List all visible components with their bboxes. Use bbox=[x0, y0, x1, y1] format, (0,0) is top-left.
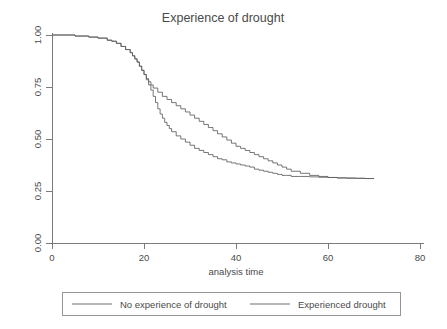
y-tick-label-4: 1.00 bbox=[32, 26, 43, 45]
chart-figure: Experience of drought 0.00 0.25 0.50 0.7… bbox=[0, 0, 447, 329]
y-tick-label-1: 0.25 bbox=[32, 182, 43, 201]
x-tick-label-3: 60 bbox=[323, 252, 334, 263]
survival-chart-svg: Experience of drought 0.00 0.25 0.50 0.7… bbox=[0, 0, 447, 329]
x-tick-label-4: 80 bbox=[415, 252, 426, 263]
y-tick-label-2: 0.50 bbox=[32, 130, 43, 149]
chart-background bbox=[0, 0, 447, 329]
x-tick-label-1: 20 bbox=[139, 252, 150, 263]
chart-title: Experience of drought bbox=[162, 11, 285, 25]
x-axis-title: analysis time bbox=[209, 266, 264, 277]
legend-label-no-experience: No experience of drought bbox=[120, 299, 227, 310]
legend-label-experienced: Experienced drought bbox=[298, 299, 386, 310]
chart-legend: No experience of drought Experienced dro… bbox=[62, 292, 400, 315]
x-tick-label-0: 0 bbox=[49, 252, 54, 263]
y-tick-label-0: 0.00 bbox=[32, 234, 43, 253]
y-tick-label-3: 0.75 bbox=[32, 78, 43, 97]
x-tick-label-2: 40 bbox=[231, 252, 242, 263]
